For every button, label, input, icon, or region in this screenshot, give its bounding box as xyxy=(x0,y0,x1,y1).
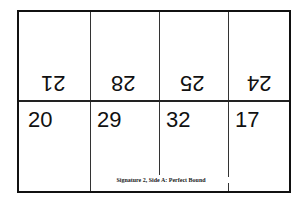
page-top-4: 24 xyxy=(247,72,271,94)
page-bottom-1: 20 xyxy=(28,109,52,131)
page-top-3: 25 xyxy=(180,72,204,94)
imposition-sheet: 21 28 25 24 20 29 32 17 Signature 2, Sid… xyxy=(17,10,291,193)
page-top-2: 28 xyxy=(111,72,135,94)
page-bottom-4: 17 xyxy=(235,109,259,131)
page-top-1: 21 xyxy=(41,72,65,94)
row-divider xyxy=(19,100,289,102)
page-bottom-2: 29 xyxy=(97,109,121,131)
page-bottom-3: 32 xyxy=(166,109,190,131)
column-divider-2 xyxy=(159,12,160,175)
diagram-caption: Signature 2, Side A: Perfect Bound xyxy=(91,177,231,183)
